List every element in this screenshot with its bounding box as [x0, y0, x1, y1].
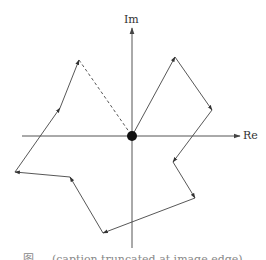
vector-segment-4 — [173, 162, 195, 198]
vector-segment-1 — [132, 57, 175, 136]
figure-caption: 图 ... (caption truncated at image edge) — [0, 253, 266, 260]
vector-segment-6 — [70, 177, 103, 233]
vector-chain — [15, 57, 212, 233]
real-axis-label: Re — [243, 130, 258, 141]
vector-segment-5 — [103, 198, 195, 233]
vector-segment-8b — [60, 60, 79, 108]
vector-segment-2 — [175, 57, 212, 110]
closing-dashed-segment — [79, 60, 132, 136]
imaginary-axis-label: Im — [124, 14, 139, 25]
complex-plane-figure: Im Re 图 ... (caption truncated at image … — [0, 0, 266, 260]
vector-segment-8a — [15, 108, 60, 172]
phasor-diagram — [0, 0, 266, 260]
origin-dot — [127, 131, 137, 141]
vector-segment-7 — [15, 172, 70, 177]
